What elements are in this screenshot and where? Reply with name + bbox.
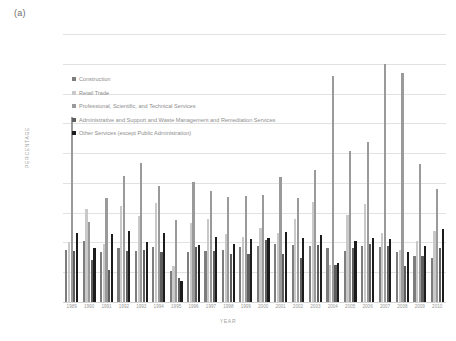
bar	[163, 233, 165, 302]
x-axis-tick-label: 2003	[307, 304, 324, 309]
bar-group	[289, 34, 306, 302]
bar-group	[394, 34, 411, 302]
bar	[215, 237, 217, 303]
x-axis-tick-label: 1989	[63, 304, 80, 309]
x-axis-tick-label: 1997	[202, 304, 219, 309]
bar-group	[429, 34, 446, 302]
bar	[128, 231, 130, 302]
bar-group	[411, 34, 428, 302]
x-axis-tick-label: 2007	[376, 304, 393, 309]
bar	[337, 263, 339, 302]
bar-group	[220, 34, 237, 302]
bar	[267, 238, 269, 302]
bar-group	[342, 34, 359, 302]
x-axis-tick-label: 1990	[80, 304, 97, 309]
bar	[198, 245, 200, 302]
x-axis-tick-label: 1992	[115, 304, 132, 309]
bar	[76, 233, 78, 302]
bar-group	[272, 34, 289, 302]
bar-group	[80, 34, 97, 302]
bar-group	[324, 34, 341, 302]
bar-group	[98, 34, 115, 302]
bar	[389, 239, 391, 302]
bar-group	[167, 34, 184, 302]
legend-label: Other Services (except Public Administra…	[79, 130, 191, 136]
x-axis-tick-label: 1996	[185, 304, 202, 309]
bar-group	[185, 34, 202, 302]
bar	[180, 281, 182, 302]
x-axis-tick-label: 1995	[167, 304, 184, 309]
x-axis-tick-label: 2006	[359, 304, 376, 309]
bar-group	[376, 34, 393, 302]
legend-item: Other Services (except Public Administra…	[72, 130, 275, 136]
bar	[372, 238, 374, 302]
bar-group	[307, 34, 324, 302]
legend-swatch-icon	[72, 77, 76, 81]
legend-swatch-icon	[72, 118, 76, 122]
bar-group	[254, 34, 271, 302]
bar	[93, 248, 95, 302]
bar-group	[359, 34, 376, 302]
legend-label: Administrative and Support and Waste Man…	[79, 117, 275, 123]
x-axis-tick-label: 2002	[289, 304, 306, 309]
bar	[320, 235, 322, 302]
legend-item: Retail Trade	[72, 90, 275, 96]
x-axis-tick-label: 2001	[272, 304, 289, 309]
bar-group	[63, 34, 80, 302]
legend-item: Administrative and Support and Waste Man…	[72, 117, 275, 123]
bar	[285, 232, 287, 302]
x-axis-tick-label: 1991	[98, 304, 115, 309]
bar-group	[150, 34, 167, 302]
bar-group	[202, 34, 219, 302]
x-axis-tick-label: 1994	[150, 304, 167, 309]
bar	[233, 244, 235, 302]
x-axis-tick-label: 2010	[429, 304, 446, 309]
legend-swatch-icon	[72, 91, 76, 95]
y-axis-title: PERCENTAGE	[24, 127, 30, 168]
bar-groups	[63, 34, 446, 302]
bar	[146, 242, 148, 302]
bar	[354, 241, 356, 302]
gridline	[63, 302, 446, 303]
legend-item: Professional, Scientific, and Technical …	[72, 103, 275, 109]
bar	[424, 246, 426, 302]
legend-label: Construction	[79, 76, 110, 82]
bar-group	[237, 34, 254, 302]
x-axis-tick-label: 2004	[324, 304, 341, 309]
x-axis-ticks: 1989199019911992199319941995199619971998…	[63, 304, 446, 309]
bar-group	[133, 34, 150, 302]
legend-swatch-icon	[72, 131, 76, 135]
bar-group	[115, 34, 132, 302]
chart-legend: ConstructionRetail TradeProfessional, Sc…	[72, 76, 275, 136]
chart-figure: (a) PERCENTAGE YEAR 0.0%5.0%10.0%15.0%20…	[0, 0, 456, 341]
legend-label: Retail Trade	[79, 90, 109, 96]
bar	[111, 234, 113, 302]
x-axis-title: YEAR	[0, 318, 456, 324]
bar	[442, 229, 444, 302]
legend-item: Construction	[72, 76, 275, 82]
x-axis-tick-label: 1998	[220, 304, 237, 309]
bar	[250, 239, 252, 302]
panel-label: (a)	[14, 8, 26, 18]
x-axis-tick-label: 1999	[237, 304, 254, 309]
x-axis-tick-label: 2000	[254, 304, 271, 309]
legend-label: Professional, Scientific, and Technical …	[79, 103, 196, 109]
x-axis-tick-label: 2005	[342, 304, 359, 309]
legend-swatch-icon	[72, 104, 76, 108]
bar	[407, 252, 409, 302]
x-axis-tick-label: 2009	[411, 304, 428, 309]
bar	[302, 238, 304, 302]
x-axis-tick-label: 2008	[394, 304, 411, 309]
x-axis-tick-label: 1993	[133, 304, 150, 309]
plot-area: 0.0%5.0%10.0%15.0%20.0%25.0%30.0%35.0%40…	[63, 34, 446, 302]
